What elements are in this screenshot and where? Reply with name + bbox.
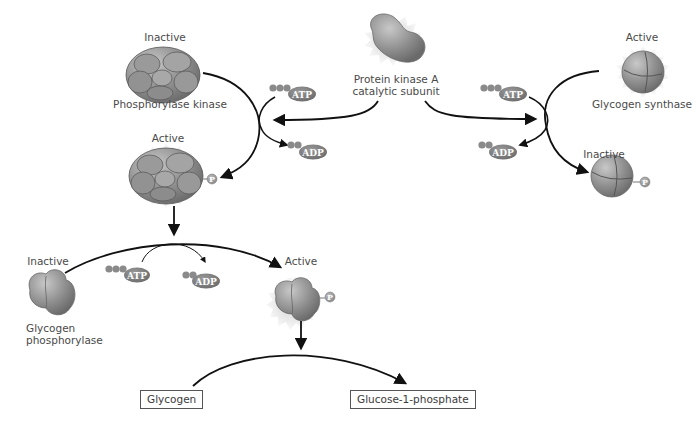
- gp-name-line1: Glycogen: [26, 322, 75, 334]
- phk-active-label: Active: [152, 132, 184, 144]
- adp-icon-left: ADP: [287, 141, 327, 159]
- svg-text:P: P: [642, 177, 648, 187]
- gs-active-label: Active: [626, 31, 658, 43]
- arrow-phosphorylase-kinase-activation: [203, 73, 259, 177]
- protein-kinase-a-icon: [364, 14, 425, 66]
- svg-text:ATP: ATP: [291, 90, 312, 100]
- adp-icon-right: ADP: [478, 141, 517, 159]
- gp-inactive-label: Inactive: [27, 255, 69, 267]
- phosphorylase-kinase-active-icon: P: [128, 143, 217, 208]
- gs-inactive-label: Inactive: [583, 148, 625, 160]
- atp-icon-bottom: ATP: [105, 265, 150, 282]
- svg-text:ADP: ADP: [491, 148, 514, 158]
- pathway-diagram: P P P: [0, 0, 699, 429]
- phosphorylase-kinase-inactive-icon: [126, 47, 200, 103]
- gp-active-label: Active: [285, 255, 317, 267]
- arrow-atp-to-adp-right: [520, 97, 548, 145]
- glucose-1-phosphate-box: Glucose-1-phosphate: [350, 390, 476, 409]
- atp-icon-right: ATP: [480, 84, 527, 101]
- glycogen-box: Glycogen: [140, 390, 203, 409]
- pka-name-line2: catalytic subunit: [352, 85, 439, 97]
- arrow-pka-to-phosphorylase-kinase: [275, 101, 378, 120]
- svg-text:ADP: ADP: [301, 148, 324, 158]
- arrow-glycogen-to-g1p: [193, 355, 405, 386]
- svg-text:ATP: ATP: [126, 271, 147, 281]
- phk-name-label: Phosphorylase kinase: [113, 98, 227, 110]
- pka-name-line1: Protein kinase A: [354, 73, 439, 85]
- arrow-atp-to-adp-left: [259, 97, 287, 145]
- gs-name-label: Glycogen synthase: [592, 98, 692, 110]
- glycogen-synthase-active-icon: [616, 46, 670, 98]
- svg-text:ADP: ADP: [194, 277, 217, 287]
- svg-text:ATP: ATP: [502, 90, 523, 100]
- svg-text:P: P: [327, 292, 333, 302]
- atp-icon-left: ATP: [269, 84, 316, 101]
- glycogen-synthase-inactive-icon: P: [591, 155, 650, 197]
- arrow-pka-to-glycogen-synthase: [425, 101, 535, 119]
- svg-text:P: P: [209, 174, 215, 184]
- gp-name-line2: phosphorylase: [26, 334, 103, 346]
- arrow-phosphorylase-activation: [65, 244, 280, 273]
- adp-icon-bottom: ADP: [182, 271, 220, 288]
- phk-inactive-label: Inactive: [144, 31, 186, 43]
- glycogen-phosphorylase-inactive-icon: [29, 270, 75, 315]
